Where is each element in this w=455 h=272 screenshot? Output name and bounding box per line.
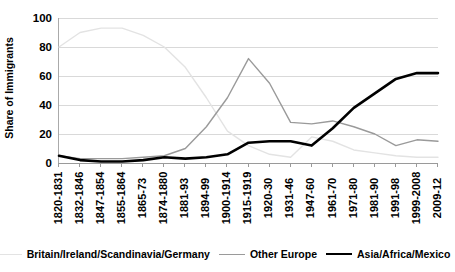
x-axis-tick-mark <box>184 163 185 167</box>
chart-legend: Britain/Ireland/Scandinavia/GermanyOther… <box>0 243 446 265</box>
legend-item[interactable]: Britain/Ireland/Scandinavia/Germany <box>0 248 210 260</box>
legend-label: Other Europe <box>250 248 317 260</box>
series-lines <box>59 18 438 163</box>
x-axis-tick-mark <box>437 163 438 167</box>
legend-item[interactable]: Other Europe <box>219 248 317 260</box>
x-axis-tick-label-text: 2009-12 <box>431 178 443 218</box>
x-axis-tick-labels: 1820-18311832-18461847-18541855-18641865… <box>58 168 437 230</box>
x-axis-tick-label: 2009-12 <box>406 168 455 230</box>
x-axis-tick-mark <box>395 163 396 167</box>
legend-line-swatch <box>219 254 245 255</box>
x-axis-tick-mark <box>205 163 206 167</box>
y-axis-tick-label: 100 <box>33 12 52 24</box>
y-axis-tick-label: 20 <box>39 128 52 140</box>
x-axis-tick-mark <box>269 163 270 167</box>
legend-item[interactable]: Asia/Africa/Mexico <box>326 248 450 260</box>
x-axis-tick-mark <box>374 163 375 167</box>
y-axis-tick-label: 80 <box>39 41 52 53</box>
x-axis-tick-mark <box>79 163 80 167</box>
legend-label: Britain/Ireland/Scandinavia/Germany <box>27 248 210 260</box>
x-axis-tick-mark <box>311 163 312 167</box>
y-axis-tick-label: 40 <box>39 99 52 111</box>
x-axis-tick-mark <box>58 163 59 167</box>
legend-line-swatch <box>326 253 352 255</box>
y-axis-title-label: Share of Immigrants <box>3 37 15 139</box>
x-axis-tick-mark <box>416 163 417 167</box>
plot-area <box>58 18 438 163</box>
x-axis-tick-mark <box>353 163 354 167</box>
x-axis-tick-mark <box>332 163 333 167</box>
x-axis-tick-mark <box>100 163 101 167</box>
legend-line-swatch <box>0 254 22 255</box>
series-line <box>59 73 438 161</box>
x-axis-tick-mark <box>163 163 164 167</box>
x-axis-tick-mark <box>226 163 227 167</box>
y-axis-tick-label: 60 <box>39 70 52 82</box>
x-axis-tick-mark <box>121 163 122 167</box>
x-axis-tick-marks <box>58 163 437 167</box>
y-axis-title: Share of Immigrants <box>0 0 18 175</box>
x-axis-tick-mark <box>290 163 291 167</box>
x-axis-tick-mark <box>142 163 143 167</box>
y-axis-tick-labels: 020406080100 <box>18 11 56 167</box>
x-axis-tick-mark <box>248 163 249 167</box>
legend-label: Asia/Africa/Mexico <box>357 248 450 260</box>
